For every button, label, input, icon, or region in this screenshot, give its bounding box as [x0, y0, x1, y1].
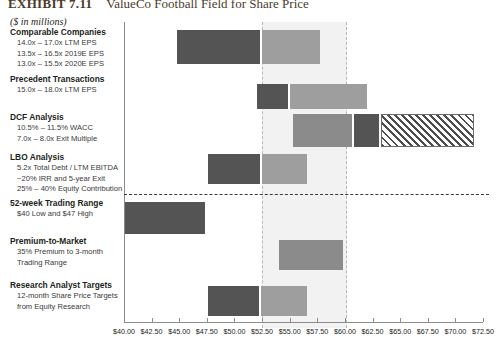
x-tick — [400, 318, 401, 322]
bar-comparable-companies[interactable] — [177, 30, 319, 64]
category-title: 52-week Trading Range — [10, 198, 126, 209]
x-axis-line — [124, 322, 483, 323]
x-tick-label: $62.50 — [362, 327, 384, 336]
label-group-comparable-companies: Comparable Companies14.0x – 17.0x LTM EP… — [10, 27, 126, 70]
category-title: Precedent Transactions — [10, 74, 126, 85]
bar-segment-low — [208, 286, 259, 316]
bar-segment-high — [262, 154, 307, 184]
category-title: DCF Analysis — [10, 112, 126, 123]
x-tick-label: $50.00 — [223, 327, 245, 336]
x-tick-label: $72.50 — [472, 327, 494, 336]
x-tick — [455, 318, 456, 322]
category-title: LBO Analysis — [10, 152, 126, 163]
bar-dcf-analysis[interactable] — [293, 114, 474, 147]
y-axis-line — [124, 22, 125, 322]
category-subline: 10.5% – 11.5% WACC — [10, 123, 126, 134]
bar-segment-low — [293, 114, 352, 147]
football-field-chart: Comparable Companies14.0x – 17.0x LTM EP… — [0, 0, 500, 356]
label-group-lbo-analysis: LBO Analysis5.2x Total Debt / LTM EBITDA… — [10, 152, 126, 195]
x-tick-label: $40.00 — [113, 327, 135, 336]
category-title: Research Analyst Targets — [10, 280, 126, 291]
category-subline: 12-month Share Price Targets — [10, 291, 126, 302]
x-tick-label: $55.00 — [279, 327, 301, 336]
x-tick-label: $65.00 — [389, 327, 411, 336]
category-subline: from Equity Research — [10, 302, 126, 313]
x-tick — [152, 318, 153, 322]
label-group-52-week-trading-range: 52-week Trading Range$40 Low and $47 Hig… — [10, 198, 126, 220]
x-tick-label: $47.50 — [196, 327, 218, 336]
category-subline: 5.2x Total Debt / LTM EBITDA — [10, 163, 126, 174]
x-tick-label: $67.50 — [417, 327, 439, 336]
category-subline: 15.0x – 18.0x LTM EPS — [10, 85, 126, 96]
category-title: Comparable Companies — [10, 27, 126, 38]
category-subline: 13.0x – 15.5x 2020E EPS — [10, 59, 126, 70]
x-tick-label: $57.50 — [306, 327, 328, 336]
category-subline: 35% Premium to 3-month — [10, 247, 126, 258]
x-tick — [345, 318, 346, 322]
bar-segment-solid — [124, 202, 205, 234]
market-divider-line — [124, 194, 489, 195]
x-tick — [234, 318, 235, 322]
bar-segment-low — [257, 84, 288, 109]
x-tick — [428, 318, 429, 322]
label-group-research-analyst-targets: Research Analyst Targets12-month Share P… — [10, 280, 126, 312]
x-tick-label: $60.00 — [334, 327, 356, 336]
bar-precedent-transactions[interactable] — [257, 84, 367, 109]
x-tick-label: $42.50 — [141, 327, 163, 336]
label-group-dcf-analysis: DCF Analysis10.5% – 11.5% WACC7.0x – 8.0… — [10, 112, 126, 144]
bar-segment-high — [290, 84, 367, 109]
x-tick — [373, 318, 374, 322]
category-subline: 13.5x – 16.5x 2019E EPS — [10, 49, 126, 60]
bar-segment-mid — [354, 114, 380, 147]
x-tick-label: $52.50 — [251, 327, 273, 336]
bar-research-analyst-targets[interactable] — [208, 286, 307, 316]
bar-segment-high — [262, 30, 319, 64]
bar-segment-low — [208, 154, 260, 184]
category-subline: 25% – 40% Equity Contribution — [10, 184, 126, 195]
x-tick — [124, 318, 125, 322]
category-subline: ~20% IRR and 5-year Exit — [10, 174, 126, 185]
x-tick — [207, 318, 208, 322]
x-tick-label: $70.00 — [444, 327, 466, 336]
bar-segment-hatched — [381, 114, 474, 147]
bar-segment-solid — [279, 240, 343, 270]
category-subline: $40 Low and $47 High — [10, 209, 126, 220]
bar-52-week-trading-range[interactable] — [124, 202, 205, 234]
x-tick — [317, 318, 318, 322]
x-tick — [179, 318, 180, 322]
x-tick — [483, 318, 484, 322]
bar-segment-low — [177, 30, 260, 64]
bar-segment-high — [261, 286, 307, 316]
x-tick-label: $45.00 — [168, 327, 190, 336]
x-tick — [262, 318, 263, 322]
x-tick — [290, 318, 291, 322]
bar-premium-to-market[interactable] — [279, 240, 343, 270]
category-subline: Trading Range — [10, 258, 126, 269]
label-group-precedent-transactions: Precedent Transactions15.0x – 18.0x LTM … — [10, 74, 126, 96]
category-subline: 14.0x – 17.0x LTM EPS — [10, 38, 126, 49]
category-title: Premium-to-Market — [10, 236, 126, 247]
bar-lbo-analysis[interactable] — [208, 154, 307, 184]
label-group-premium-to-market: Premium-to-Market35% Premium to 3-monthT… — [10, 236, 126, 268]
category-subline: 7.0x – 8.0x Exit Multiple — [10, 134, 126, 145]
